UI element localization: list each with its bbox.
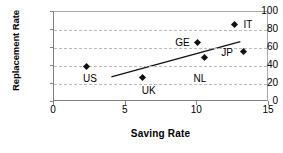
x-tick-label: 5 — [110, 105, 140, 115]
y-tick-mark — [50, 65, 53, 66]
data-point-label: JP — [221, 48, 233, 58]
data-point-label: UK — [142, 86, 156, 96]
x-tick-label: 10 — [181, 105, 211, 115]
y-axis-title: Replacement Rate — [10, 0, 21, 106]
y-tick-label: 40 — [235, 60, 283, 70]
y-tick-mark — [50, 47, 53, 48]
x-tick-mark — [53, 101, 54, 105]
data-point-label: NL — [194, 74, 207, 84]
scatter-chart: Replacement Rate USUKGENLJPIT Saving Rat… — [0, 0, 283, 153]
x-tick-mark — [196, 101, 197, 105]
y-tick-mark — [50, 29, 53, 30]
y-tick-label: 60 — [235, 42, 283, 52]
y-tick-label: 20 — [235, 78, 283, 88]
y-tick-label: 80 — [235, 24, 283, 34]
data-point-label: GE — [175, 38, 189, 48]
y-tick-mark — [50, 11, 53, 12]
x-tick-mark — [268, 101, 269, 105]
x-tick-label: 15 — [253, 105, 283, 115]
x-tick-label: 0 — [38, 105, 68, 115]
y-tick-mark — [50, 83, 53, 84]
x-axis-title: Saving Rate — [53, 128, 268, 139]
data-point-label: US — [83, 74, 97, 84]
y-tick-label: 100 — [235, 6, 283, 16]
x-tick-mark — [125, 101, 126, 105]
